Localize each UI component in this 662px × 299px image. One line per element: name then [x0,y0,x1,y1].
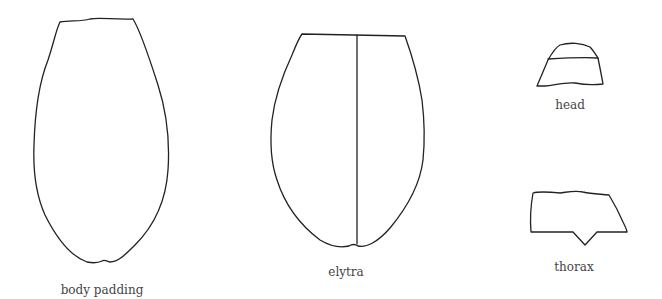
head-shape [537,43,603,86]
label-elytra: elytra [328,265,363,279]
label-head: head [555,98,585,112]
thorax-shape [530,191,627,245]
label-body-padding: body padding [61,283,144,297]
head-band-line [548,58,598,59]
diagram-canvas: body padding elytra head thorax [0,0,662,299]
elytra-shape [271,34,425,247]
label-thorax: thorax [554,260,593,274]
body-padding-shape [34,18,169,262]
beetle-parts-diagram [0,0,662,299]
